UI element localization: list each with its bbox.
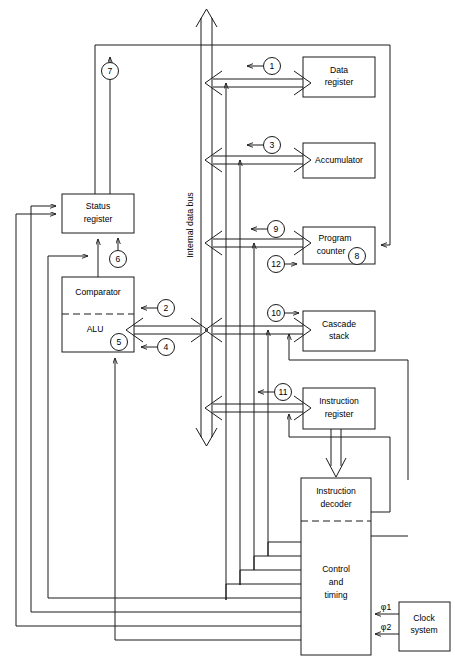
comparator-label: Comparator xyxy=(75,287,121,297)
callout-1-number: 1 xyxy=(270,61,275,71)
block-data-register[interactable]: Data register xyxy=(303,57,375,97)
callout-9: 9 xyxy=(268,221,285,238)
block-control-unit[interactable]: Instruction decoder Control and timing xyxy=(301,478,371,655)
callout-11: 11 xyxy=(275,384,292,401)
callout-5: 5 xyxy=(111,334,128,351)
callout-6: 6 xyxy=(110,251,127,268)
accumulator-label: Accumulator xyxy=(315,155,363,165)
callout-4-number: 4 xyxy=(164,342,169,352)
callout-12: 12 xyxy=(268,256,285,273)
control-timing-label-1: Control xyxy=(322,564,350,574)
callout-9-number: 9 xyxy=(274,224,279,234)
callout-10: 10 xyxy=(268,305,285,322)
callout-11-number: 11 xyxy=(279,387,288,397)
callout-5-number: 5 xyxy=(117,337,122,347)
control-timing-label-3: timing xyxy=(325,590,348,600)
status-register-label-1: Status xyxy=(86,201,110,211)
cpu-block-diagram: Internal data bus Data register Accumula… xyxy=(0,0,455,663)
data-register-label-2: register xyxy=(325,77,354,87)
cascade-stack-label-1: Cascade xyxy=(322,319,356,329)
callout-12-number: 12 xyxy=(271,259,281,269)
phi1-label: φ1 xyxy=(381,602,392,612)
callout-3: 3 xyxy=(264,137,281,154)
program-counter-label-2: counter xyxy=(317,246,346,256)
block-status-register[interactable]: Status register xyxy=(62,194,134,233)
callout-4: 4 xyxy=(158,339,175,356)
callout-8: 8 xyxy=(349,248,366,265)
clock-system-label-2: system xyxy=(410,625,437,635)
block-cascade-stack[interactable]: Cascade stack xyxy=(303,311,375,351)
instruction-decoder-label-2: decoder xyxy=(320,499,351,509)
callout-7-number: 7 xyxy=(108,66,113,76)
instruction-decoder-label-1: Instruction xyxy=(316,486,356,496)
block-instruction-register[interactable]: Instruction register xyxy=(303,388,375,429)
program-counter-label-1: Program xyxy=(319,233,352,243)
callout-1: 1 xyxy=(264,58,281,75)
block-accumulator[interactable]: Accumulator xyxy=(303,143,375,178)
instruction-register-label-1: Instruction xyxy=(319,396,359,406)
data-register-label-1: Data xyxy=(330,65,348,75)
phi2-label: φ2 xyxy=(381,622,392,632)
bus-label: Internal data bus xyxy=(185,192,195,258)
clock-system-label-1: Clock xyxy=(413,613,435,623)
cascade-stack-label-2: stack xyxy=(329,331,350,341)
callout-3-number: 3 xyxy=(270,140,275,150)
callout-10-number: 10 xyxy=(271,308,281,318)
block-clock-system[interactable]: Clock system xyxy=(399,602,450,651)
callout-7: 7 xyxy=(102,63,119,80)
control-timing-label-2: and xyxy=(329,577,344,587)
callout-2: 2 xyxy=(158,300,175,317)
alu-label: ALU xyxy=(87,324,104,334)
callout-8-number: 8 xyxy=(355,251,360,261)
callout-2-number: 2 xyxy=(164,303,169,313)
status-register-label-2: register xyxy=(84,214,113,224)
callout-6-number: 6 xyxy=(116,254,121,264)
instruction-register-label-2: register xyxy=(325,409,354,419)
